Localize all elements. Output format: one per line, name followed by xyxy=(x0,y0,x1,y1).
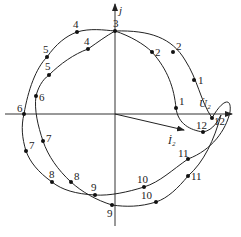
point-a-9-label: 9 xyxy=(91,181,97,193)
point-a-3 xyxy=(113,29,117,33)
point-a-6 xyxy=(22,112,26,116)
point-b-4-label: 4 xyxy=(84,35,90,47)
u2-label: U̇₂ xyxy=(199,97,211,109)
point-a-4 xyxy=(75,30,79,34)
point-a-7-label: 7 xyxy=(29,139,35,151)
imaginary-axis-label: j xyxy=(117,4,122,16)
point-b-7-label: 7 xyxy=(46,132,52,144)
point-a-1 xyxy=(192,78,196,82)
i2-phasor xyxy=(115,114,184,130)
point-a-1-label: 1 xyxy=(198,74,204,86)
point-b-6-label: 6 xyxy=(39,91,45,103)
point-a-10-label: 10 xyxy=(137,173,149,185)
point-b-12-label: 12 xyxy=(196,119,207,131)
point-b-11-label: 11 xyxy=(191,170,202,182)
point-b-8 xyxy=(69,180,73,184)
point-b-2-label: 2 xyxy=(155,46,161,58)
point-a-12-label: 12 xyxy=(214,115,225,127)
point-b-1-label: 1 xyxy=(179,95,185,107)
point-b-9-label: 9 xyxy=(107,207,113,219)
point-b-8-label: 8 xyxy=(74,170,80,182)
point-a-3-label: 3 xyxy=(113,17,119,29)
diagram-svg: j İ₂ U̇₂ 1 2 3 4 5 6 7 8 9 xyxy=(0,0,241,237)
curve-b-points: 1 2 4 5 6 7 8 9 10 11 12 xyxy=(34,35,207,219)
point-a-5 xyxy=(45,55,49,59)
point-b-2 xyxy=(150,50,154,54)
point-b-5 xyxy=(47,73,51,77)
point-a-2 xyxy=(171,50,175,54)
point-a-11-label: 11 xyxy=(178,147,189,159)
point-b-5-label: 5 xyxy=(45,60,51,72)
point-a-8-label: 8 xyxy=(49,168,55,180)
point-a-7 xyxy=(24,149,28,153)
point-a-6-label: 6 xyxy=(17,102,23,114)
phasor-diagram: j İ₂ U̇₂ 1 2 3 4 5 6 7 8 9 xyxy=(0,0,241,237)
point-a-9 xyxy=(93,193,97,197)
i2-label: İ₂ xyxy=(167,134,176,146)
point-b-6 xyxy=(34,94,38,98)
point-b-4 xyxy=(86,47,90,51)
point-b-10 xyxy=(154,200,158,204)
point-a-5-label: 5 xyxy=(43,43,49,55)
point-b-7 xyxy=(41,139,45,143)
point-b-11 xyxy=(186,174,190,178)
point-a-4-label: 4 xyxy=(73,18,79,30)
point-a-2-label: 2 xyxy=(176,40,182,52)
point-b-1 xyxy=(174,106,178,110)
point-a-8 xyxy=(50,180,54,184)
point-b-10-label: 10 xyxy=(141,189,153,201)
